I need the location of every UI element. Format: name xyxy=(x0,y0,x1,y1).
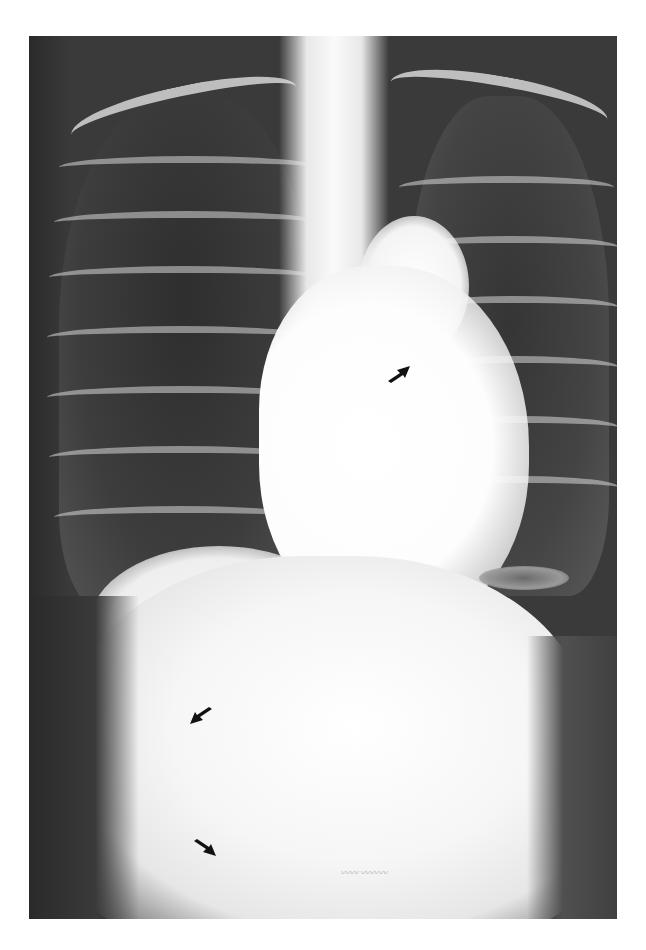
film-signature: 〰〰 〰〰〰 xyxy=(340,866,387,879)
arrow-down-right-icon xyxy=(192,838,218,858)
rib xyxy=(404,236,617,259)
rib xyxy=(54,211,319,234)
arrow-up-right-icon xyxy=(386,364,412,384)
rib xyxy=(54,506,309,529)
rib xyxy=(424,476,617,499)
rib xyxy=(409,296,617,319)
right-hemidiaphragm xyxy=(89,546,349,706)
rib xyxy=(47,326,317,349)
chest-xray-image xyxy=(29,36,617,919)
rib xyxy=(59,156,319,179)
rib xyxy=(49,446,314,469)
gastric-air-bubble xyxy=(479,566,569,590)
abdominal-opacity xyxy=(69,556,589,919)
rib xyxy=(419,416,617,439)
rib xyxy=(49,266,319,289)
right-clavicle xyxy=(66,63,301,160)
rib xyxy=(399,176,614,199)
heart-shadow xyxy=(259,266,529,626)
rib xyxy=(414,356,617,379)
left-lung-field xyxy=(409,96,609,596)
rib xyxy=(47,386,317,409)
left-flank xyxy=(527,636,617,919)
right-flank xyxy=(29,596,139,919)
arrow-down-left-icon xyxy=(188,706,214,726)
spine-mediastinum xyxy=(279,36,389,736)
left-clavicle xyxy=(386,57,611,144)
